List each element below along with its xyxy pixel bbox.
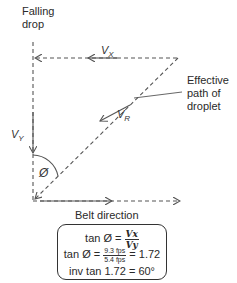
- formula-2-fraction: 9.3 fps 5.4 fps: [103, 247, 126, 264]
- vx-label: VX: [101, 44, 114, 59]
- angle-label: Ø: [39, 166, 48, 180]
- vx-sub: X: [108, 50, 113, 59]
- formula-line-3: inv tan 1.72 = 60°: [58, 265, 166, 277]
- falling-drop-label-line1: Falling: [22, 5, 54, 18]
- formula-1-lhs: tan Ø =: [85, 232, 121, 244]
- resultant-dashed-line: [35, 58, 178, 199]
- formula-2-numerator: 9.3 fps: [103, 247, 126, 256]
- formula-2-denominator: 5.4 fps: [103, 256, 126, 264]
- effective-path-label-line3: droplet: [187, 100, 229, 113]
- vr-label: VR: [117, 108, 130, 123]
- vy-label: VY: [11, 128, 24, 143]
- formula-line-2: tan Ø = 9.3 fps 5.4 fps = 1.72: [58, 247, 166, 264]
- formula-2-rhs: = 1.72: [129, 248, 160, 260]
- belt-direction-label: Belt direction: [75, 209, 139, 222]
- effective-path-label: Effective path of droplet: [187, 74, 229, 113]
- formula-2-lhs: tan Ø =: [64, 248, 100, 260]
- formula-box: tan Ø = Vx Vy tan Ø = 9.3 fps 5.4 fps = …: [57, 224, 167, 280]
- vr-sub: R: [124, 114, 130, 123]
- formula-1-numerator: Vx: [125, 229, 139, 240]
- effective-path-label-line2: path of: [187, 87, 229, 100]
- vy-sub: Y: [18, 134, 23, 143]
- effective-path-label-line1: Effective: [187, 74, 229, 87]
- falling-drop-label: Falling drop: [22, 5, 54, 31]
- falling-drop-label-line2: drop: [22, 18, 54, 31]
